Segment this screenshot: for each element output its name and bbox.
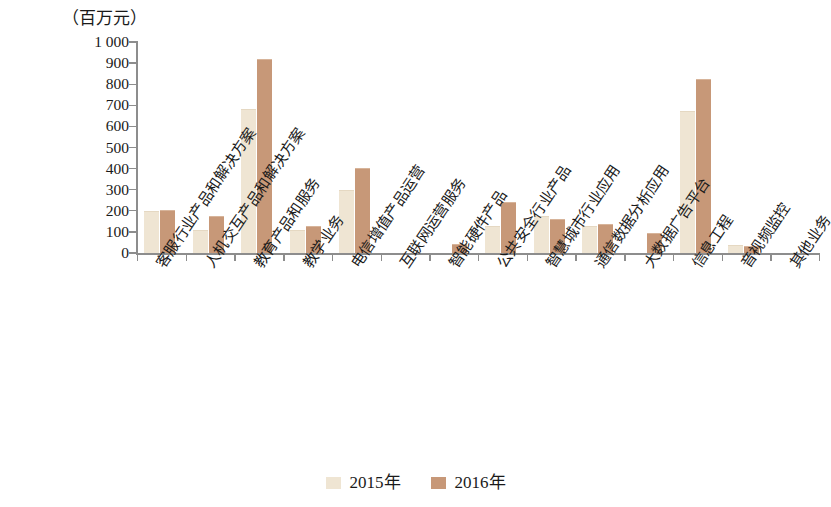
chart-legend: 2015年2016年 [0, 474, 831, 491]
y-axis-tick-label: 500 [106, 140, 129, 156]
y-axis-tick-mark [129, 84, 136, 85]
bar-chart: （百万元） 1 0009008007006005004003002001000 … [0, 0, 831, 507]
y-axis-tick-label: 100 [106, 224, 129, 240]
bar-2015 [680, 111, 695, 253]
legend-label: 2015年 [350, 474, 401, 491]
y-axis-tick-label: 200 [106, 203, 129, 219]
y-axis-unit-label: （百万元） [62, 4, 147, 29]
bar-2015 [193, 230, 208, 253]
y-axis-tick-label: 800 [106, 76, 129, 92]
x-axis-category-labels: 客服行业产品和解决方案人机交互产品和解决方案教育产品和服务教学业务电信增值产品运… [0, 258, 831, 458]
y-axis-tick-mark [129, 126, 136, 127]
legend-swatch-icon [431, 477, 446, 489]
legend-swatch-icon [326, 477, 341, 489]
y-axis-tick-label: 300 [106, 182, 129, 198]
y-axis-tick-mark [129, 62, 136, 63]
bar-2015 [728, 245, 743, 253]
y-axis-tick-labels: 1 0009008007006005004003002001000 [57, 42, 129, 253]
y-axis-tick-mark [129, 189, 136, 190]
y-axis-tick-mark [129, 105, 136, 106]
y-axis-tick-mark [129, 147, 136, 148]
bar-2016 [257, 59, 272, 253]
y-axis-tick-label: 700 [106, 97, 129, 113]
bar-group [137, 42, 186, 253]
y-axis-tick-mark [129, 41, 136, 42]
bar-2016 [696, 79, 711, 253]
y-axis-tick-label: 900 [106, 55, 129, 71]
y-axis-tick-mark [129, 168, 136, 169]
y-axis-tick-label: 400 [106, 161, 129, 177]
y-axis-tick-mark [129, 210, 136, 211]
legend-item[interactable]: 2016年 [431, 474, 506, 491]
y-axis-tick-label: 1 000 [94, 34, 129, 50]
y-axis-tick-mark [129, 231, 136, 232]
bar-2015 [290, 230, 305, 253]
bar-2015 [144, 211, 159, 253]
y-axis-tick-label: 600 [106, 118, 129, 134]
bar-2015 [582, 226, 597, 253]
legend-label: 2016年 [455, 474, 506, 491]
y-axis-tick-mark [129, 252, 136, 253]
bar-2015 [485, 226, 500, 253]
legend-item[interactable]: 2015年 [326, 474, 401, 491]
